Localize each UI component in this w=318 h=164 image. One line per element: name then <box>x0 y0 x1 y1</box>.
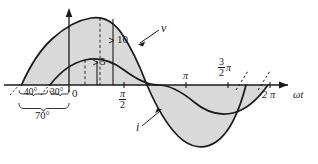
tick-label-three-halves-pi: 3 2 π <box>218 57 231 78</box>
current-label-leader <box>142 111 160 126</box>
waveform-plot <box>0 0 318 164</box>
angle-70-label: 70° <box>35 111 50 122</box>
current-amplitude-label: 5 <box>100 56 106 67</box>
three-halves-pi-symbol: π <box>226 63 231 73</box>
x-axis-label: ωt <box>293 90 303 101</box>
pi-over-2-denominator: 2 <box>119 100 126 110</box>
current-curve-label: i <box>136 121 139 133</box>
origin-label: 0 <box>72 88 78 99</box>
tick-label-two-pi: 2 π <box>262 90 275 101</box>
angle-30-label: 30° <box>50 88 63 98</box>
voltage-amplitude-label: 10 <box>117 34 128 45</box>
waveform-figure: v i 0 5 10 40° 30° 70° π 2 π 3 2 π 2 π ω… <box>0 0 318 164</box>
y-axis-arrowhead <box>66 8 73 17</box>
angle-40-label: 40° <box>24 88 37 98</box>
tick-label-pi: π <box>183 71 188 81</box>
x-axis-arrowhead <box>279 82 288 89</box>
voltage-curve-label: v <box>161 22 166 34</box>
tick-label-pi-over-2: π 2 <box>119 89 126 110</box>
voltage-label-leader <box>140 30 159 43</box>
three-halves-denominator: 2 <box>218 68 225 78</box>
